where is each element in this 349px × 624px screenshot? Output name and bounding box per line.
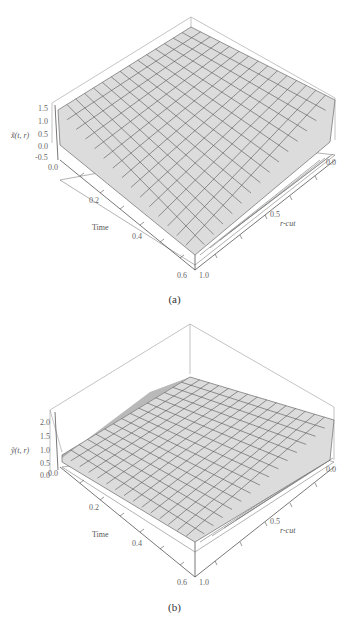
x-axis-label-b: Time xyxy=(92,530,109,539)
z-axis-label-b: ỹ(t, r) xyxy=(11,446,29,455)
time-tick-a-3: 0.6 xyxy=(177,271,187,280)
z-tick-a-3: 0.0 xyxy=(38,142,48,151)
figure-b: 2.0 1.5 1.0 0.5 0.0 ỹ(t, r) 0.0 0.2 0.4 … xyxy=(0,312,349,624)
surface-plot-b xyxy=(0,312,349,624)
z-tick-b-2: 1.0 xyxy=(40,446,50,455)
time-tick-a-2: 0.4 xyxy=(132,232,142,241)
r-tick-b-1: 0.5 xyxy=(270,517,280,526)
time-tick-b-0: 0.0 xyxy=(48,469,58,478)
time-tick-b-1: 0.2 xyxy=(89,503,99,512)
z-tick-b-1: 1.5 xyxy=(40,432,50,441)
z-tick-b-0: 2.0 xyxy=(40,418,50,427)
z-tick-a-1: 1.0 xyxy=(38,117,48,126)
surface-plot-a xyxy=(0,0,349,312)
r-tick-a-0: 0.0 xyxy=(326,158,336,167)
upper-surface-b xyxy=(62,377,334,542)
time-tick-b-3: 0.6 xyxy=(177,578,187,587)
z-tick-a-4: -0.5 xyxy=(35,153,48,162)
caption-b: (b) xyxy=(0,601,349,613)
r-tick-a-1: 0.5 xyxy=(270,210,280,219)
z-tick-a-0: 1.5 xyxy=(38,104,48,113)
caption-a: (a) xyxy=(0,293,349,305)
z-tick-a-2: 0.5 xyxy=(38,130,48,139)
figure-a: 1.5 1.0 0.5 0.0 -0.5 x̃(t, r) 0.0 0.2 0.… xyxy=(0,0,349,312)
x-axis-label-a: Time xyxy=(92,223,109,232)
time-tick-a-0: 0.0 xyxy=(48,163,58,172)
time-tick-a-1: 0.2 xyxy=(89,196,99,205)
z-axis-label-a: x̃(t, r) xyxy=(11,131,29,140)
time-tick-b-2: 0.4 xyxy=(132,539,142,548)
r-tick-b-0: 0.0 xyxy=(326,465,336,474)
r-tick-b-2: 1.0 xyxy=(199,578,209,587)
z-tick-b-3: 0.5 xyxy=(40,459,50,468)
y-axis-label-a: r-cut xyxy=(280,219,295,228)
r-tick-a-2: 1.0 xyxy=(199,271,209,280)
y-axis-label-b: r-cut xyxy=(280,526,295,535)
